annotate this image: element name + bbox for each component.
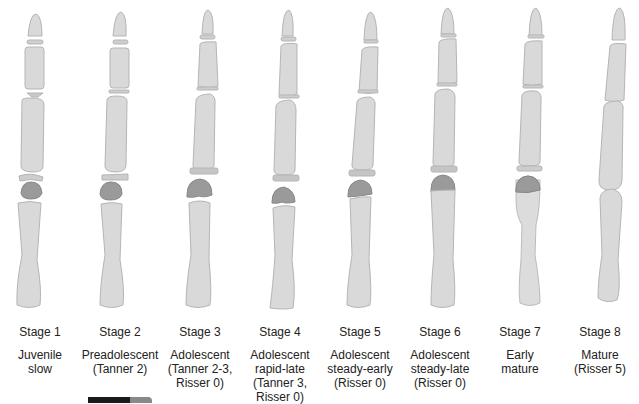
finger-bones-illustration bbox=[80, 0, 160, 320]
stage-column-2: Stage 2 Preadolescent (Tanner 2) bbox=[80, 0, 160, 402]
stage-label: Stage 1 bbox=[0, 325, 80, 339]
finger-bones-illustration bbox=[400, 0, 480, 320]
stage-column-1: Stage 1 Juvenile slow bbox=[0, 0, 80, 402]
stage-column-8: Stage 8 Mature (Risser 5) bbox=[560, 0, 639, 402]
stage-column-7: Stage 7 Early mature bbox=[480, 0, 560, 402]
finger-bones-illustration bbox=[320, 0, 400, 320]
scale-bar bbox=[88, 397, 152, 403]
stage-label: Stage 5 bbox=[320, 325, 400, 339]
stage-column-6: Stage 6 Adolescent steady-late (Risser 0… bbox=[400, 0, 480, 402]
stage-label: Stage 4 bbox=[240, 325, 320, 339]
stage-column-5: Stage 5 Adolescent steady-early (Risser … bbox=[320, 0, 400, 402]
stage-column-3: Stage 3 Adolescent (Tanner 2-3, Risser 0… bbox=[160, 0, 240, 402]
stage-label: Stage 8 bbox=[560, 325, 639, 339]
stage-label: Stage 6 bbox=[400, 325, 480, 339]
finger-bones-illustration bbox=[560, 0, 639, 320]
scale-bar-dark-segment bbox=[88, 397, 130, 403]
stage-description: Adolescent steady-late (Risser 0) bbox=[400, 348, 480, 390]
stage-description: Adolescent (Tanner 2-3, Risser 0) bbox=[160, 348, 240, 390]
stage-label: Stage 7 bbox=[480, 325, 560, 339]
stage-description: Preadolescent (Tanner 2) bbox=[80, 348, 160, 376]
stage-label: Stage 3 bbox=[160, 325, 240, 339]
stage-description: Mature (Risser 5) bbox=[560, 348, 639, 376]
finger-bones-illustration bbox=[160, 0, 240, 320]
finger-bones-illustration bbox=[480, 0, 560, 320]
stage-column-4: Stage 4 Adolescent rapid-late (Tanner 3,… bbox=[240, 0, 320, 402]
stage-description: Juvenile slow bbox=[0, 348, 80, 376]
scale-bar-light-segment bbox=[130, 397, 152, 403]
finger-bones-illustration bbox=[0, 0, 80, 320]
finger-bones-illustration bbox=[240, 0, 320, 320]
stage-label: Stage 2 bbox=[80, 325, 160, 339]
stage-description: Early mature bbox=[480, 348, 560, 376]
stage-description: Adolescent rapid-late (Tanner 3, Risser … bbox=[240, 348, 320, 404]
stage-description: Adolescent steady-early (Risser 0) bbox=[320, 348, 400, 390]
